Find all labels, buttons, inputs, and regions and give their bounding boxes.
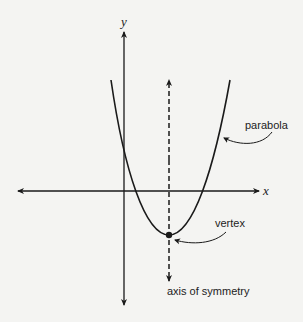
x-axis-label: x (263, 184, 269, 197)
y-axis-label: y (121, 15, 127, 28)
vertex-point (166, 232, 172, 238)
parabola-diagram: y x parabola vertex axis of symmetry (0, 0, 303, 322)
parabola-callout-arrow (224, 132, 272, 143)
diagram-graphics (0, 0, 303, 322)
parabola-curve (111, 80, 230, 235)
parabola-label: parabola (245, 120, 288, 131)
vertex-label: vertex (215, 218, 245, 229)
vertex-callout-arrow (175, 232, 226, 243)
axis-of-symmetry-label: axis of symmetry (167, 286, 250, 297)
